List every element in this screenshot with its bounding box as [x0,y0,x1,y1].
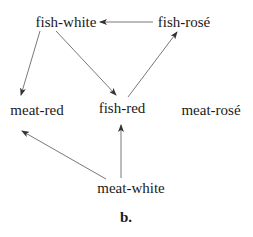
node-fish-white: fish-white [36,14,97,30]
node-meat-white: meat-white [97,180,164,196]
figure-caption: b. [120,209,132,226]
node-fish-red: fish-red [99,100,146,116]
node-fish-rose: fish-rosé [158,14,211,30]
node-meat-rose: meat-rosé [181,102,240,118]
edge-meat-white-to-meat-red [22,131,106,179]
edge-fish-white-to-fish-red [56,31,116,95]
edge-fish-white-to-meat-red [21,31,40,95]
edges-layer [0,0,253,237]
edge-fish-red-to-fish-rose [128,32,177,97]
node-meat-red: meat-red [10,102,63,118]
